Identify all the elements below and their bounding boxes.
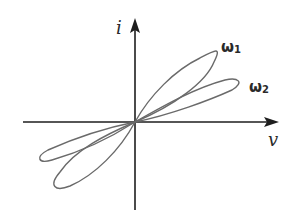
- omega2-label: ω2: [249, 78, 269, 96]
- diagram-canvas: i v ω1 ω2: [0, 0, 298, 216]
- curve-omega2: [40, 79, 239, 161]
- omega2-label-sub: 2: [262, 84, 269, 95]
- hysteresis-diagram: i v ω1 ω2: [0, 0, 298, 216]
- omega1-label: ω1: [221, 38, 241, 56]
- omega1-label-sub: 1: [234, 44, 241, 55]
- y-axis-label: i: [116, 17, 122, 38]
- omega1-label-main: ω: [221, 38, 234, 56]
- omega2-label-main: ω: [249, 78, 262, 96]
- x-axis-label: v: [268, 129, 278, 150]
